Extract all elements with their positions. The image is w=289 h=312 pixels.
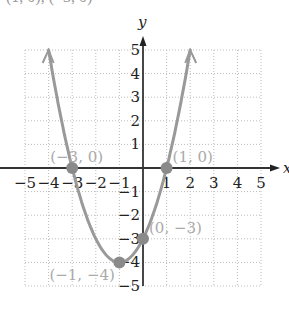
point-marker	[113, 256, 125, 268]
point-label: (0, −3)	[149, 219, 202, 237]
point-label: (−1, −4)	[49, 266, 114, 284]
point-marker	[161, 162, 173, 174]
y-tick-label: −3	[118, 230, 140, 248]
y-tick-label: 4	[130, 65, 140, 83]
x-tick-label: 4	[233, 174, 243, 192]
parabola-graph: xy−5−4−3−2−112345−5−4−3−2−112345(−3, 0)(…	[0, 0, 289, 312]
y-axis-label: y	[137, 13, 147, 31]
x-tick-label: −3	[61, 174, 83, 192]
y-tick-label: 1	[130, 135, 140, 153]
x-tick-label: 3	[209, 174, 219, 192]
point-label: (1, 0)	[173, 148, 213, 166]
x-axis-label: x	[283, 159, 289, 177]
y-axis-arrow-icon	[140, 36, 147, 46]
x-tick-label: 5	[256, 174, 266, 192]
x-tick-label: −5	[14, 174, 36, 192]
x-axis-arrow-icon	[270, 165, 280, 172]
x-tick-label: 2	[185, 174, 195, 192]
y-tick-label: −5	[118, 277, 140, 295]
y-tick-label: −1	[118, 183, 140, 201]
point-label: (−3, 0)	[50, 148, 103, 166]
point-marker	[137, 233, 149, 245]
y-tick-label: 5	[130, 41, 140, 59]
x-tick-label: −2	[85, 174, 107, 192]
y-tick-label: 2	[130, 112, 140, 130]
y-tick-label: −2	[118, 206, 140, 224]
x-tick-label: −4	[38, 174, 60, 192]
y-tick-label: 3	[130, 88, 140, 106]
